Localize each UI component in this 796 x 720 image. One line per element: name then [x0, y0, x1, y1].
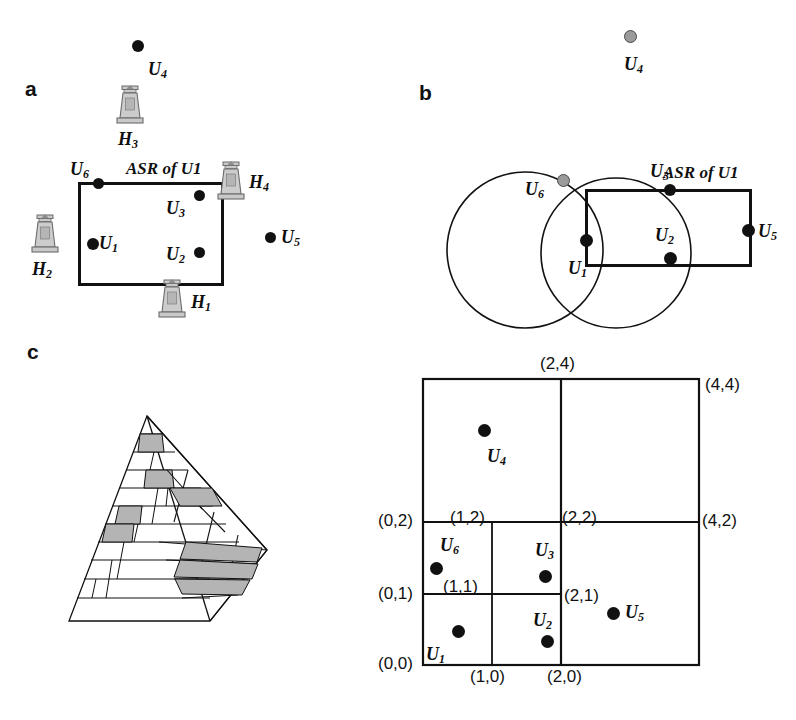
- user-dot-u4-panel-a: [132, 40, 144, 52]
- user-dot-u2-panel-c: [541, 635, 554, 648]
- user-label-sub: 4: [500, 454, 506, 468]
- user-label-sub: 2: [546, 618, 552, 632]
- grid-coord-2-0: (2,0): [547, 668, 582, 685]
- user-label-text: U: [166, 198, 179, 218]
- pyramid-quadtree-diagram: [62, 402, 302, 642]
- grid-coord-0-1: (0,1): [378, 585, 413, 602]
- user-label-sub: 4: [161, 67, 167, 81]
- user-label-text: U: [426, 644, 439, 664]
- user-label-text: U: [535, 540, 548, 560]
- user-label-u2-panel-c: U2: [533, 611, 552, 629]
- user-label-text: U: [625, 602, 638, 622]
- bs-label-text: H: [118, 129, 132, 149]
- user-label-text: U: [655, 225, 668, 245]
- base-station-icon-h4: [214, 160, 248, 202]
- user-label-sub: 2: [179, 252, 185, 266]
- user-dot-u6-panel-b: [557, 174, 570, 187]
- bs-label-sub: 4: [263, 180, 269, 194]
- user-label-u1-panel-b: U1: [568, 259, 587, 277]
- user-label-u6-panel-b: U6: [525, 180, 544, 198]
- base-station-icon-h1: [155, 278, 189, 320]
- user-label-sub: 3: [548, 548, 554, 562]
- user-label-sub: 3: [179, 206, 185, 220]
- user-dot-u1-panel-b: [580, 234, 593, 247]
- grid-coord-0-0: (0,0): [378, 655, 413, 672]
- user-label-text: U: [533, 610, 546, 630]
- grid-coord-4-4: (4,4): [705, 376, 740, 393]
- grid-coord-2-2: (2,2): [562, 509, 597, 526]
- asr-caption-panel-a: ASR of U1: [126, 160, 202, 177]
- panel-label-a: a: [25, 78, 37, 99]
- user-dot-u4-panel-c: [478, 424, 491, 437]
- user-label-u4-panel-a: U4: [148, 60, 167, 78]
- bs-label-text: H: [32, 259, 46, 279]
- bs-label-text: H: [191, 292, 205, 312]
- user-label-sub: 6: [83, 167, 89, 181]
- user-label-u2-panel-b: U2: [655, 226, 674, 244]
- user-label-sub: 4: [637, 62, 643, 76]
- base-station-label-h4: H4: [249, 173, 269, 191]
- grid-coord-1-1: (1,1): [443, 578, 478, 595]
- user-dot-u3-panel-a: [194, 190, 205, 201]
- user-label-text: U: [525, 179, 538, 199]
- user-dot-u5-panel-c: [607, 607, 620, 620]
- user-dot-u2-panel-a: [194, 247, 205, 258]
- user-dot-u6-panel-c: [430, 562, 443, 575]
- grid-coord-1-2: (1,2): [450, 509, 485, 526]
- user-dot-u2-panel-b: [664, 252, 677, 265]
- user-label-u6-panel-a: U6: [70, 160, 89, 178]
- user-label-u4-panel-c: U4: [487, 447, 506, 465]
- grid-coord-0-2: (0,2): [378, 512, 413, 529]
- user-label-sub: 3: [663, 169, 669, 183]
- user-label-u3-panel-b: U3: [650, 162, 669, 180]
- user-label-u2-panel-a: U2: [166, 245, 185, 263]
- user-label-text: U: [148, 59, 161, 79]
- user-label-text: U: [99, 233, 112, 253]
- user-label-sub: 2: [668, 233, 674, 247]
- grid-coord-1-0: (1,0): [470, 668, 505, 685]
- base-station-label-h1: H1: [191, 293, 211, 311]
- user-label-text: U: [281, 227, 294, 247]
- user-label-sub: 6: [538, 187, 544, 201]
- user-label-sub: 5: [638, 610, 644, 624]
- grid-coord-4-2: (4,2): [702, 512, 737, 529]
- user-label-text: U: [166, 244, 179, 264]
- user-dot-u6-panel-a: [93, 178, 104, 189]
- user-label-sub: 1: [439, 652, 445, 666]
- grid-coord-2-4: (2,4): [540, 355, 575, 372]
- user-label-sub: 6: [453, 543, 459, 557]
- user-dot-u1-panel-a: [87, 238, 99, 250]
- bs-label-text: H: [249, 172, 263, 192]
- user-label-text: U: [568, 258, 581, 278]
- user-label-u3-panel-a: U3: [166, 199, 185, 217]
- user-label-sub: 5: [294, 235, 300, 249]
- user-dot-u1-panel-c: [452, 625, 465, 638]
- grid-coord-2-1: (2,1): [564, 587, 599, 604]
- base-station-label-h3: H3: [118, 130, 138, 148]
- bs-label-sub: 1: [205, 300, 211, 314]
- panel-label-c: c: [27, 341, 39, 362]
- user-label-text: U: [624, 54, 637, 74]
- user-label-u1-panel-c: U1: [426, 645, 445, 663]
- bs-label-sub: 3: [132, 137, 138, 151]
- user-dot-u5-panel-b: [742, 224, 755, 237]
- user-label-sub: 1: [581, 266, 587, 280]
- user-label-u5-panel-b: U5: [758, 222, 777, 240]
- user-label-u3-panel-c: U3: [535, 541, 554, 559]
- base-station-icon-h2: [28, 213, 62, 255]
- user-dot-u3-panel-c: [539, 570, 552, 583]
- user-label-text: U: [70, 159, 83, 179]
- user-label-text: U: [650, 161, 663, 181]
- user-label-sub: 5: [771, 229, 777, 243]
- user-label-u4-panel-b: U4: [624, 55, 643, 73]
- asr-caption-panel-b: ASR of U1: [663, 164, 739, 181]
- figure-root: a U4 H3 ASR of U1 U6: [0, 0, 796, 720]
- user-label-text: U: [487, 446, 500, 466]
- user-label-u1-panel-a: U1: [99, 234, 118, 252]
- user-label-u5-panel-a: U5: [281, 228, 300, 246]
- user-label-u5-panel-c: U5: [625, 603, 644, 621]
- panel-label-b: b: [419, 82, 432, 103]
- base-station-label-h2: H2: [32, 260, 52, 278]
- user-dot-u3-panel-b: [664, 184, 676, 196]
- user-dot-u4-panel-b: [624, 30, 637, 43]
